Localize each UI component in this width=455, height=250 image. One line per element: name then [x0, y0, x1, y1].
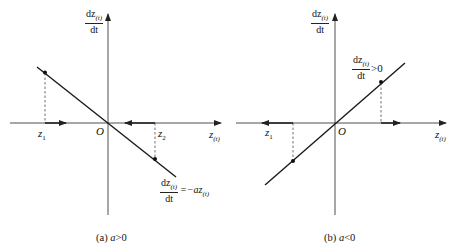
panel-b-x-axis-label: z(t) — [435, 129, 446, 143]
panel-b-point-left — [291, 159, 295, 163]
panel-a-x-axis-label: z(t) — [209, 129, 220, 143]
panel-b-graph — [236, 14, 446, 215]
panel-b-origin-label: O — [338, 126, 346, 137]
panel-a-y-axis-label: dz(t) dt — [85, 9, 103, 36]
panel-b-z1-label: z1 — [265, 127, 273, 141]
panel-a-z2-label: z2 — [158, 128, 166, 142]
panel-a-equation: dz(t) dt =−az(t) — [160, 178, 209, 205]
panel-a-origin-label: O — [96, 126, 104, 137]
panel-a-z1-label: z1 — [38, 128, 46, 142]
phase-diagram-canvas — [0, 0, 455, 250]
panel-b-y-axis-label: dz(t) dt — [311, 9, 329, 36]
panel-a-point-z2 — [153, 157, 157, 161]
panel-b-annotation: dz(t) dt >0 — [352, 55, 383, 82]
panel-a-caption: (a) a>0 — [96, 232, 127, 243]
panel-b-caption: (b) a<0 — [324, 232, 355, 243]
panel-a-point-z1 — [43, 71, 47, 75]
